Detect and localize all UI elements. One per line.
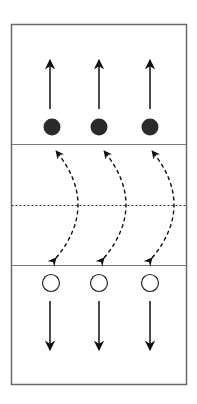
open-players [43,275,159,292]
open-player-icon [142,275,159,292]
filled-player-icon [91,119,108,136]
filled-players [44,119,159,136]
curved-dashed-arrow-icon [56,151,78,258]
crossing-paths [56,151,174,258]
open-player-icon [91,275,108,292]
up-arrows [50,60,150,109]
down-arrows [50,301,150,350]
open-player-icon [43,275,60,292]
filled-player-icon [44,119,61,136]
court-diagram: Court drill diagram [0,0,197,404]
curved-dashed-arrow-icon [104,151,126,258]
filled-player-icon [142,119,159,136]
curved-dashed-arrow-icon [152,151,174,258]
